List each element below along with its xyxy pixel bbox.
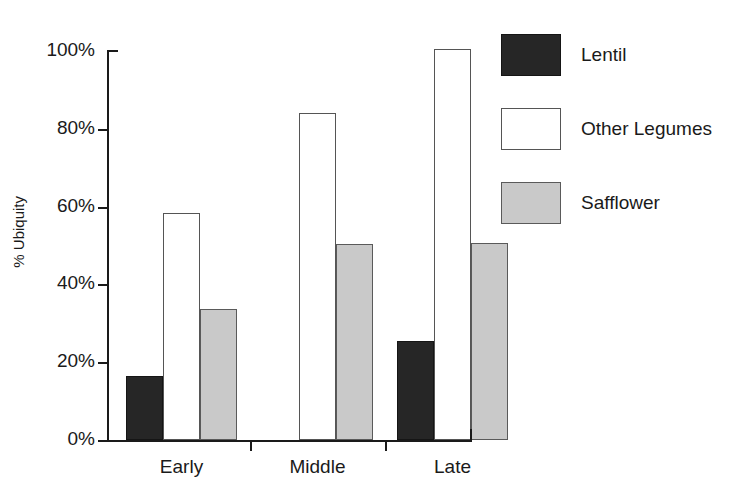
y-tick-mark (98, 284, 107, 286)
y-tick-label: 80% (57, 117, 95, 139)
legend-label: Lentil (581, 43, 626, 67)
bar-late-lentil (397, 341, 434, 440)
y-axis-line (107, 50, 109, 441)
x-separator-tick-1 (250, 440, 252, 451)
legend-label: Safflower (581, 191, 660, 215)
bar-late-safflower (471, 243, 508, 440)
legend-label: Other Legumes (581, 117, 712, 141)
legend-item-other-legumes[interactable]: Other Legumes (501, 108, 721, 151)
group-label-late: Late (385, 455, 520, 479)
x-axis-line (107, 440, 472, 442)
legend-item-safflower[interactable]: Safflower (501, 182, 721, 225)
group-label-middle: Middle (250, 455, 385, 479)
legend-item-lentil[interactable]: Lentil (501, 34, 721, 77)
y-tick-label: 40% (57, 272, 95, 294)
bar-middle-other-legumes (299, 113, 336, 440)
bar-chart-figure: % Ubiquity 100%80%60%40%20%0% EarlyMiddl… (0, 0, 734, 480)
y-axis-top-cap (107, 50, 118, 52)
bar-early-safflower (200, 309, 237, 440)
dark-swatch (501, 34, 561, 76)
bar-early-lentil (126, 376, 163, 440)
y-tick-mark (98, 207, 107, 209)
bar-late-other-legumes (434, 49, 471, 440)
x-separator-tick-2 (385, 440, 387, 451)
group-label-early: Early (114, 455, 249, 479)
y-tick-mark (98, 362, 107, 364)
y-axis-title: % Ubiquity (10, 196, 28, 268)
white-swatch (501, 108, 561, 150)
x-axis-end-cap (470, 429, 472, 442)
y-tick-label: 0% (68, 428, 95, 450)
plot-area: 100%80%60%40%20%0% EarlyMiddleLate (107, 51, 472, 440)
gray-swatch (501, 182, 561, 224)
y-tick-mark (98, 129, 107, 131)
bar-early-other-legumes (163, 213, 200, 440)
bar-middle-safflower (336, 244, 373, 440)
y-tick-label: 20% (57, 350, 95, 372)
y-tick-label: 60% (57, 195, 95, 217)
chart-legend: LentilOther LegumesSafflower (501, 34, 721, 256)
y-tick-mark (98, 440, 107, 442)
y-tick-label: 100% (46, 39, 95, 61)
